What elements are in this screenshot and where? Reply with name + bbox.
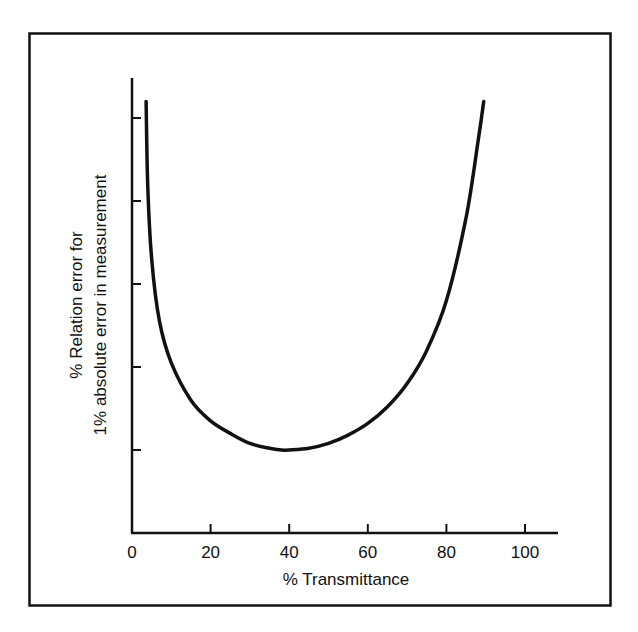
y-ticks [132,118,141,450]
x-tick-label: 0 [127,543,136,562]
y-axis-title-line1: % Relation error for [67,231,86,379]
figure-frame [30,34,611,606]
y-axis-title-line2: 1% absolute error in measurement [91,174,110,435]
chart: 020406080100 % Transmittance % Relation … [0,0,638,632]
x-axis-title: % Transmittance [283,570,410,589]
y-axis-title: % Relation error for 1% absolute error i… [67,174,110,435]
x-tick-label: 80 [437,543,456,562]
x-tick-label: 20 [201,543,220,562]
x-tick-label: 40 [280,543,299,562]
x-ticks: 020406080100 [127,524,539,562]
x-tick-label: 60 [358,543,377,562]
data-series-curve [146,101,484,450]
x-tick-label: 100 [511,543,539,562]
